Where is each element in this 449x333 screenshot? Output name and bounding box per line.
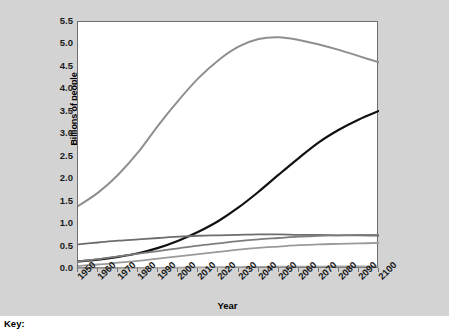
y-tick-label: 0.5 [47, 241, 73, 251]
plot-area [77, 21, 378, 268]
y-tick-label: 1.0 [47, 218, 73, 228]
y-tick-label: 3.0 [47, 128, 73, 138]
y-tick-label: 0.0 [47, 263, 73, 273]
x-axis-title: Year [77, 300, 378, 311]
y-tick-label: 5.5 [47, 16, 73, 26]
chart-screenshot: Billions of people 0.00.51.01.52.02.53.0… [0, 0, 449, 333]
key-strip: Key: [0, 316, 449, 333]
y-tick-label: 4.5 [47, 61, 73, 71]
key-label: Key: [4, 318, 25, 329]
y-tick-label: 4.0 [47, 83, 73, 93]
series-line [78, 235, 379, 262]
y-tick-label: 2.5 [47, 151, 73, 161]
y-tick-label: 5.0 [47, 38, 73, 48]
figure-panel: Billions of people 0.00.51.01.52.02.53.0… [0, 0, 449, 316]
series-line [78, 37, 379, 206]
y-tick-label: 1.5 [47, 196, 73, 206]
series-lines [78, 22, 379, 269]
y-tick-label: 3.5 [47, 106, 73, 116]
series-line [78, 111, 379, 261]
y-tick-label: 2.0 [47, 173, 73, 183]
y-axis-tick-labels: 0.00.51.01.52.02.53.03.54.04.55.05.5 [45, 0, 73, 316]
x-tick-label: 2100 [376, 259, 399, 282]
